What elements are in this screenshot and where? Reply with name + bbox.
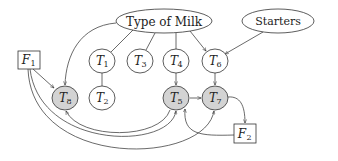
node-subscript: 1 xyxy=(103,60,108,69)
node-subscript: 1 xyxy=(30,59,35,68)
node-type-of-milk: Type of Milk xyxy=(116,9,212,33)
node-subscript: 7 xyxy=(216,97,221,106)
edge-starters-t6 xyxy=(225,32,263,54)
node-subscript: 3 xyxy=(141,60,146,69)
edge-f1-t8 xyxy=(33,69,54,88)
edge-t7-f2 xyxy=(228,97,245,123)
node-t6: T 6 xyxy=(202,49,228,73)
node-subscript: 5 xyxy=(177,97,182,106)
node-subscript: 6 xyxy=(216,60,221,69)
graph-svg: Type of Milk Starters F 1 F 2 T 1 T 3 T … xyxy=(0,0,338,161)
edge-milk-t3 xyxy=(146,33,155,50)
node-subscript: 8 xyxy=(66,97,71,106)
node-f1: F 1 xyxy=(18,51,40,69)
node-starters: Starters xyxy=(242,9,314,33)
edge-milk-t1 xyxy=(111,30,133,52)
node-t3: T 3 xyxy=(127,49,153,73)
node-label: F xyxy=(21,53,31,67)
node-subscript: 2 xyxy=(246,133,251,142)
node-f2: F 2 xyxy=(234,124,256,143)
node-t4: T 4 xyxy=(163,49,189,73)
node-subscript: 4 xyxy=(177,60,182,69)
diagram-canvas: Type of Milk Starters F 1 F 2 T 1 T 3 T … xyxy=(0,0,338,161)
edge-f1-t7 xyxy=(28,69,214,149)
node-t8: T 8 xyxy=(52,86,78,110)
node-label: Type of Milk xyxy=(126,15,203,29)
node-label: F xyxy=(237,127,247,141)
node-t1: T 1 xyxy=(89,49,115,73)
node-t7: T 7 xyxy=(202,86,228,110)
node-t2: T 2 xyxy=(89,86,115,110)
node-t5: T 5 xyxy=(163,86,189,110)
node-label: Starters xyxy=(255,15,301,28)
node-subscript: 2 xyxy=(103,97,108,106)
edge-milk-t6 xyxy=(190,31,206,51)
